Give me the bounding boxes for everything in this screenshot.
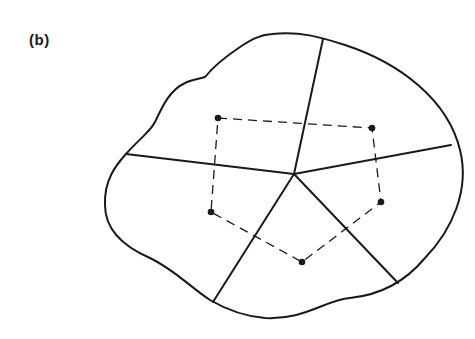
point-upper-right: [369, 125, 376, 132]
dashed-pentagon: [211, 118, 381, 262]
spoke-top: [294, 39, 323, 174]
generator-points: [208, 115, 385, 266]
region-boundary: [105, 33, 463, 318]
point-bottom: [299, 259, 306, 266]
spoke-left: [126, 154, 294, 174]
spoke-right: [294, 145, 451, 174]
voronoi-partition-diagram: [0, 0, 475, 339]
spoke-lower-left: [213, 174, 294, 302]
point-upper-left: [215, 115, 222, 122]
point-left: [208, 209, 215, 216]
partition-spokes: [126, 39, 451, 302]
point-right: [378, 199, 385, 206]
